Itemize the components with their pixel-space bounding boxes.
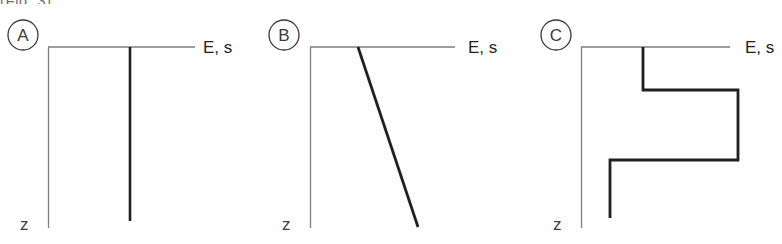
panel-b-tag-badge: B (269, 20, 299, 50)
panel-b: B E, s z (258, 0, 518, 244)
panel-b-profile-curve (358, 47, 418, 227)
panel-b-z-axis-label: z (282, 215, 291, 234)
panel-c-x-axis-label: E, s (745, 38, 774, 57)
figure-root: (Fig. 3) A E, s z B (0, 0, 782, 244)
panel-a-z-axis-label: z (20, 215, 29, 234)
panel-c-profile-curve (610, 47, 738, 218)
panel-c: C E, s z (520, 0, 782, 244)
panel-a-x-axis-label: E, s (203, 38, 232, 57)
panel-b-x-axis-label: E, s (468, 38, 497, 57)
panel-a-tag-label: A (17, 26, 29, 45)
panel-a: A E, s z (0, 0, 260, 244)
panel-c-tag-badge: C (541, 20, 571, 50)
panel-a-tag-badge: A (8, 20, 38, 50)
panel-c-z-axis-label: z (553, 215, 562, 234)
panel-b-tag-label: B (278, 26, 289, 45)
panel-c-tag-label: C (550, 26, 562, 45)
